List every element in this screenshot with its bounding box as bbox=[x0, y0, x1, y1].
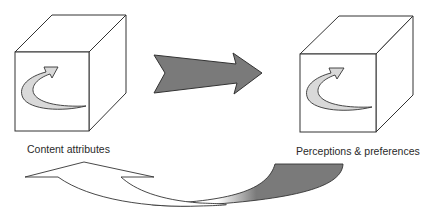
right-cube-icon bbox=[300, 16, 413, 132]
left-cube-icon bbox=[15, 15, 126, 131]
forward-arrow-icon bbox=[154, 53, 262, 94]
feedback-arrow-tail-icon bbox=[150, 164, 343, 206]
content-attributes-label: Content attributes bbox=[27, 143, 110, 155]
diagram-canvas bbox=[0, 0, 433, 218]
perceptions-preferences-label: Perceptions & preferences bbox=[296, 145, 420, 157]
feedback-arrow-head-icon bbox=[25, 162, 226, 206]
